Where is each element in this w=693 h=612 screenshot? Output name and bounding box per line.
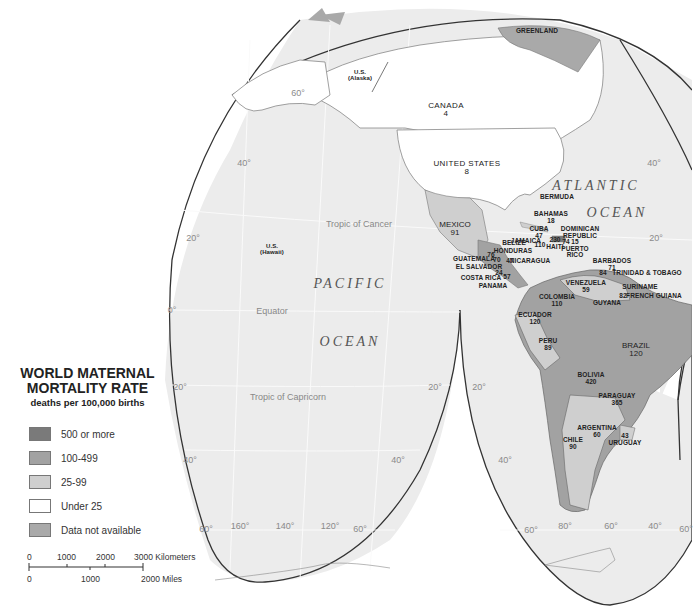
graticule-label: 60° <box>524 525 538 535</box>
country-value-jamaica: 110 <box>535 242 546 249</box>
map-legend: WORLD MATERNAL MORTALITY RATE deaths per… <box>0 366 175 542</box>
scale-bar: 0 1000 2000 3000 Kilometers 0 1000 2000 … <box>0 552 200 592</box>
country-value-trinidad: 84 <box>599 270 606 277</box>
graticule-label: 20° <box>649 233 663 243</box>
country-label-peru: PERU89 <box>539 338 557 351</box>
country-label-puerto-rico: 15PUERTO RICO <box>561 239 589 259</box>
equator-label: Equator <box>256 306 288 316</box>
country-label-brazil: BRAZIL120 <box>622 342 650 358</box>
graticule-label: 160° <box>231 521 250 531</box>
country-label-french-guiana: FRENCH GUIANA <box>626 293 682 300</box>
graticule-label: 40° <box>237 158 251 168</box>
country-label-venezuela: VENEZUELA59 <box>566 280 606 293</box>
tropic-of-cancer-label: Tropic of Cancer <box>326 219 392 229</box>
country-label-alaska: U.S.(Alaska) <box>348 69 372 81</box>
ocean-label-pacific: PACIFIC <box>314 276 387 292</box>
country-label-honduras: HONDURAS <box>494 248 532 255</box>
country-label-paraguay: PARAGUAY365 <box>599 393 636 406</box>
country-label-hawaii: U.S.(Hawaii) <box>260 243 284 255</box>
legend-title: WORLD MATERNAL MORTALITY RATE <box>0 366 175 396</box>
ocean-label-atlantic: ATLANTIC <box>552 178 639 194</box>
graticule-label: 40° <box>183 455 197 465</box>
graticule-label: 60° <box>679 524 693 534</box>
country-label-guyana: GUYANA <box>593 300 621 307</box>
graticule-label: 60° <box>199 524 213 534</box>
graticule-label: 60° <box>604 521 618 531</box>
country-label-mexico: MEXICO91 <box>439 221 471 237</box>
ocean-label-atlantic-2: OCEAN <box>587 205 648 221</box>
country-label-belize: BELIZE <box>502 240 526 247</box>
legend-subtitle: deaths per 100,000 births <box>0 397 175 408</box>
legend-swatch <box>29 451 51 465</box>
graticule-label: 80° <box>558 521 572 531</box>
country-label-chile: CHILE90 <box>563 437 583 450</box>
country-label-uruguay: 43URUGUAY <box>609 433 642 446</box>
country-value-costa-rica: 24 <box>495 270 502 277</box>
graticule-label: 60° <box>353 524 367 534</box>
country-label-dominican-republic: DOMINICAN REPUBLIC <box>553 226 607 239</box>
graticule-label: 0° <box>168 305 177 315</box>
graticule-label: 40° <box>391 455 405 465</box>
graticule-label: 20° <box>173 382 187 392</box>
land-alaska <box>232 60 330 111</box>
country-label-nicaragua: NICARAGUA <box>510 258 551 265</box>
legend-item-500-plus: 500 or more <box>29 422 175 446</box>
graticule-label: 40° <box>648 521 662 531</box>
country-label-united-states: UNITED STATES8 <box>433 160 500 176</box>
graticule-label: 60° <box>291 88 305 98</box>
legend-swatch <box>29 475 51 489</box>
country-value-panama: 57 <box>503 274 510 281</box>
country-label-ecuador: ECUADOR120 <box>518 312 552 325</box>
country-label-trinidad: TRINIDAD & TOBAGO <box>612 270 681 277</box>
country-label-suriname: SURINAME <box>622 284 657 291</box>
graticule-label: 40° <box>498 455 512 465</box>
legend-item-under-25: Under 25 <box>29 494 175 518</box>
legend-item-25-99: 25-99 <box>29 470 175 494</box>
legend-item-no-data: Data not available <box>29 518 175 542</box>
legend-swatch <box>29 427 51 441</box>
graticule-label: 120° <box>321 521 340 531</box>
country-label-bolivia: BOLIVIA420 <box>577 372 604 385</box>
graticule-label: 20° <box>186 233 200 243</box>
country-label-bahamas: BAHAMAS18 <box>534 211 568 224</box>
country-label-canada: CANADA4 <box>428 102 464 118</box>
graticule-label: 140° <box>276 521 295 531</box>
ocean-label-pacific-2: OCEAN <box>320 334 381 350</box>
legend-item-100-499: 100-499 <box>29 446 175 470</box>
legend-swatch <box>29 499 51 513</box>
country-label-panama: PANAMA <box>479 283 508 290</box>
graticule-label: 20° <box>472 382 486 392</box>
graticule-label: 20° <box>428 382 442 392</box>
tropic-of-capricorn-label: Tropic of Capricorn <box>250 392 326 402</box>
graticule-label: 40° <box>647 158 661 168</box>
country-label-greenland: GREENLAND <box>516 28 558 35</box>
country-label-colombia: COLOMBIA110 <box>539 294 575 307</box>
country-label-bermuda: BERMUDA <box>540 194 574 201</box>
legend-swatch <box>29 523 51 537</box>
